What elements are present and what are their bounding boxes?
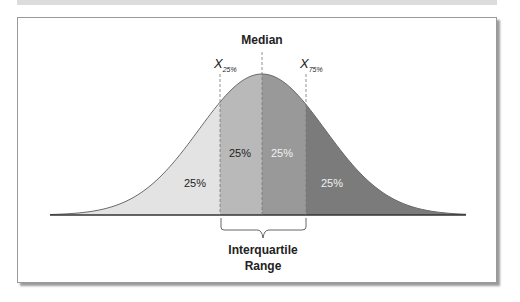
interquartile-label-line1: Interquartile <box>228 243 298 257</box>
second-quartile-percent: 25% <box>229 147 251 159</box>
lower-quartile-percent: 25% <box>184 177 206 189</box>
interquartile-bracket <box>221 218 306 238</box>
third-quartile-percent: 25% <box>271 147 293 159</box>
median-label: Median <box>241 33 282 47</box>
quartile-regions <box>40 60 476 216</box>
q3-label: X75% <box>299 56 323 73</box>
q1-label: X25% <box>213 56 237 73</box>
region-second-quartile <box>220 60 262 216</box>
upper-quartile-percent: 25% <box>321 177 343 189</box>
region-third-quartile <box>262 60 306 216</box>
normal-distribution-diagram: Median X25% X75% 25% 25% 25% 25% Interqu… <box>0 0 520 302</box>
interquartile-label-line2: Range <box>245 259 282 273</box>
